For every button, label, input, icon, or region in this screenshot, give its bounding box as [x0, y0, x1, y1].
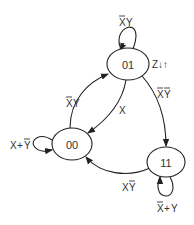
- svg-text:X: X: [122, 182, 129, 193]
- self-loop-00: [33, 137, 52, 152]
- state-diagram: 01 00 11 X Y Z↓↑ X Y X X Y X Y X + Y: [0, 0, 194, 225]
- svg-text:Y: Y: [126, 17, 133, 28]
- label-edge-00-to-01: X Y: [66, 97, 80, 109]
- svg-text:Y: Y: [164, 89, 171, 100]
- svg-text:X: X: [157, 203, 164, 214]
- svg-text:+: +: [17, 140, 23, 151]
- state-00: 00: [52, 128, 92, 160]
- svg-text:+: +: [164, 203, 170, 214]
- svg-text:Y: Y: [171, 203, 178, 214]
- edge-01-to-11: [142, 76, 166, 146]
- svg-text:X: X: [66, 98, 73, 109]
- label-self-loop-01: X Y: [119, 16, 133, 28]
- svg-text:Y: Y: [24, 140, 31, 151]
- self-loop-01: [119, 27, 136, 49]
- label-edge-01-to-11: X Y: [157, 88, 171, 100]
- state-00-label: 00: [66, 139, 78, 151]
- state-01-label: 01: [122, 59, 134, 71]
- label-edge-11-to-00: X Y: [122, 181, 136, 193]
- svg-text:X: X: [10, 140, 17, 151]
- label-edge-01-to-00: X: [119, 105, 126, 116]
- label-self-loop-00: X + Y: [10, 139, 31, 151]
- state-01: 01: [107, 48, 149, 80]
- label-self-loop-11: X + Y: [157, 202, 178, 214]
- edge-11-to-00: [86, 157, 150, 173]
- svg-text:X: X: [157, 89, 164, 100]
- svg-text:Y: Y: [73, 98, 80, 109]
- state-11-label: 11: [160, 157, 171, 169]
- svg-text:X: X: [119, 17, 126, 28]
- state-11: 11: [147, 147, 185, 177]
- output-label-01: Z↓↑: [152, 59, 168, 70]
- svg-text:Y: Y: [129, 182, 136, 193]
